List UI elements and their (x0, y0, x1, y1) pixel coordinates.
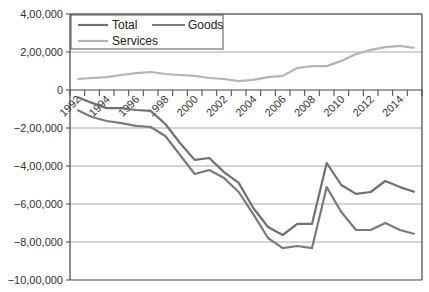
y-tick-label: 0 (57, 84, 63, 96)
y-tick-label: −2,00,000 (14, 122, 63, 134)
x-axis: 1992199419961998200020022004200620082010… (57, 90, 422, 119)
y-tick-label: −10,00,000 (8, 274, 63, 286)
series-line-services (77, 46, 414, 81)
legend-label-services: Services (112, 34, 158, 48)
y-tick-label: −4,00,000 (14, 160, 63, 172)
x-tick-label: 2008 (292, 93, 318, 119)
x-tick-label: 2014 (380, 93, 406, 119)
x-tick-label: 2002 (204, 93, 230, 119)
x-tick-label: 2010 (321, 93, 347, 119)
legend-label-total: Total (112, 18, 137, 32)
x-tick-label: 2012 (350, 93, 376, 119)
y-tick-label: −6,00,000 (14, 198, 63, 210)
legend: Total Goods Services (71, 15, 223, 49)
x-tick-label: 2000 (174, 93, 200, 119)
y-axis: 4,00,0002,00,0000−2,00,000−4,00,000−6,00… (8, 8, 422, 286)
y-tick-label: −8,00,000 (14, 236, 63, 248)
y-tick-label: 2,00,000 (20, 46, 63, 58)
line-chart: 4,00,0002,00,0000−2,00,000−4,00,000−6,00… (0, 0, 429, 292)
legend-label-goods: Goods (188, 18, 223, 32)
y-tick-label: 4,00,000 (20, 8, 63, 20)
x-tick-label: 2004 (233, 93, 259, 119)
x-tick-label: 1996 (116, 93, 142, 119)
x-tick-label: 2006 (262, 93, 288, 119)
series-lines (77, 46, 414, 248)
series-line-goods (77, 110, 414, 248)
x-tick-label: 1998 (145, 93, 171, 119)
